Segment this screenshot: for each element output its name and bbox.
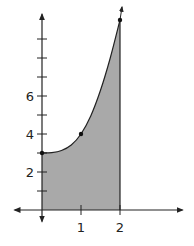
y-tick-label: 2 [26,165,34,180]
curve-point [118,18,122,22]
y-tick-label: 6 [26,89,34,104]
shaded-area [42,20,120,210]
x-tick-label: 2 [116,220,124,235]
y-tick-label: 4 [26,127,34,142]
curve-point [40,151,44,155]
curve-point [79,132,83,136]
area-under-curve-chart: 246 12 [0,0,194,246]
x-tick-label: 1 [77,220,85,235]
